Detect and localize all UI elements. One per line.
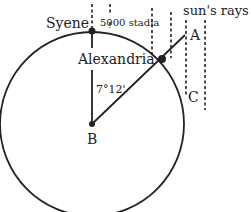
label-sun-rays: sun's rays xyxy=(183,4,249,17)
eratosthenes-diagram xyxy=(0,0,251,212)
label-alexandria: Alexandria xyxy=(78,52,155,66)
syene-point xyxy=(89,28,96,35)
alexandria-radius xyxy=(92,35,185,124)
label-angle: 7°12' xyxy=(96,84,126,95)
label-distance: 5000 stadia xyxy=(100,18,159,28)
label-c: C xyxy=(188,90,199,104)
label-a: A xyxy=(190,28,200,42)
label-syene: Syene xyxy=(46,16,89,30)
label-b: B xyxy=(87,132,97,146)
alexandria-point xyxy=(158,55,166,63)
center-point xyxy=(89,121,95,127)
